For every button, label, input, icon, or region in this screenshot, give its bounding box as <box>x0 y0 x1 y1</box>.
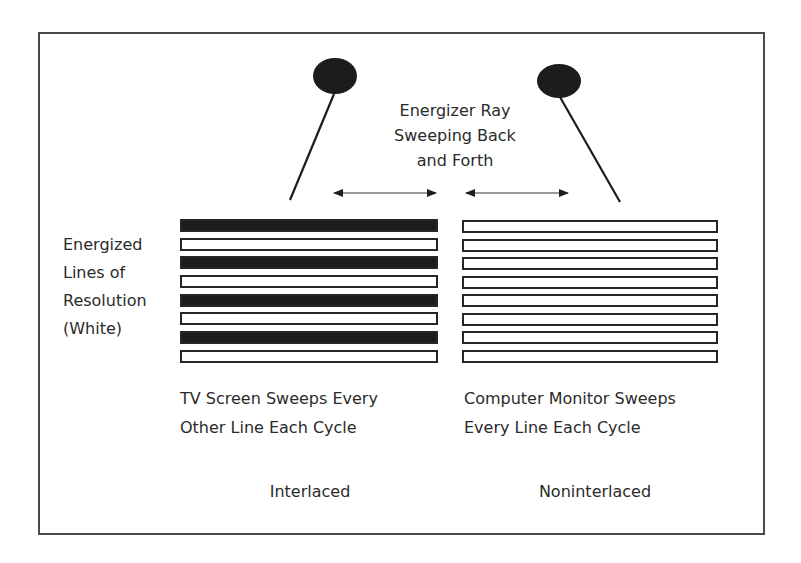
title-line-1: Energizer Ray <box>360 98 550 123</box>
title-line-3: and Forth <box>360 148 550 173</box>
scan-line <box>462 220 718 233</box>
side-line-2: Lines of <box>63 259 147 287</box>
scan-line <box>180 238 438 251</box>
energized-lines-label: Energized Lines of Resolution (White) <box>63 231 147 343</box>
noninterlaced-label: Noninterlaced <box>510 479 680 504</box>
scan-line-energized <box>180 331 438 344</box>
scan-line-energized <box>180 294 438 307</box>
caption-line-2: Other Line Each Cycle <box>180 413 378 442</box>
scan-line <box>462 294 718 307</box>
interlaced-caption: TV Screen Sweeps Every Other Line Each C… <box>180 384 378 442</box>
scan-line <box>180 312 438 325</box>
side-line-1: Energized <box>63 231 147 259</box>
noninterlaced-caption: Computer Monitor Sweeps Every Line Each … <box>464 384 676 442</box>
scan-line <box>462 331 718 344</box>
energizer-ray-label: Energizer Ray Sweeping Back and Forth <box>360 98 550 173</box>
scan-line-energized <box>180 219 438 232</box>
caption-line-1: Computer Monitor Sweeps <box>464 384 676 413</box>
side-line-3: Resolution <box>63 287 147 315</box>
caption-line-2: Every Line Each Cycle <box>464 413 676 442</box>
scan-line <box>462 239 718 252</box>
scan-line <box>462 276 718 289</box>
scan-line <box>180 275 438 288</box>
title-line-2: Sweeping Back <box>360 123 550 148</box>
scan-line-energized <box>180 256 438 269</box>
caption-line-1: TV Screen Sweeps Every <box>180 384 378 413</box>
scan-line <box>462 313 718 326</box>
scan-line <box>180 350 438 363</box>
side-line-4: (White) <box>63 315 147 343</box>
scan-line <box>462 350 718 363</box>
left-emitter-icon <box>290 58 357 200</box>
scan-line <box>462 257 718 270</box>
interlaced-label: Interlaced <box>240 479 380 504</box>
